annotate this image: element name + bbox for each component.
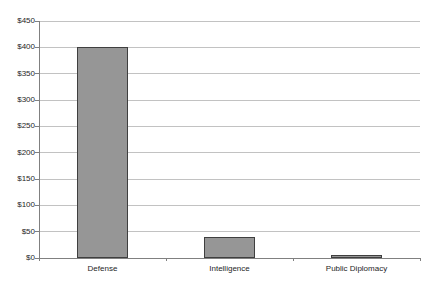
bar-chart: $450$400$350$300$250$200$150$100$50$0Def…	[0, 0, 438, 293]
category-label: Public Diplomacy	[302, 264, 412, 274]
y-axis-tick-label: $150	[3, 174, 35, 184]
y-axis-tick-label: $250	[3, 121, 35, 131]
y-axis-tick-label: $0	[3, 253, 35, 263]
x-axis-tick	[166, 258, 167, 261]
y-axis-tick-label: $450	[3, 16, 35, 26]
y-axis-tick-label: $50	[3, 227, 35, 237]
x-axis-tick	[420, 258, 421, 261]
y-axis-tick-label: $400	[3, 42, 35, 52]
y-axis-line	[39, 21, 40, 258]
y-axis-tick-label: $300	[3, 95, 35, 105]
category-label: Intelligence	[175, 264, 285, 274]
y-axis-tick-label: $200	[3, 148, 35, 158]
x-axis-tick	[39, 258, 40, 261]
category-label: Defense	[48, 264, 158, 274]
y-axis-tick-label: $100	[3, 200, 35, 210]
x-axis-tick	[293, 258, 294, 261]
bar-public-diplomacy	[331, 255, 382, 258]
y-axis-tick-label: $350	[3, 69, 35, 79]
bar-defense	[77, 47, 128, 258]
gridline	[39, 21, 420, 22]
bar-intelligence	[204, 237, 255, 258]
